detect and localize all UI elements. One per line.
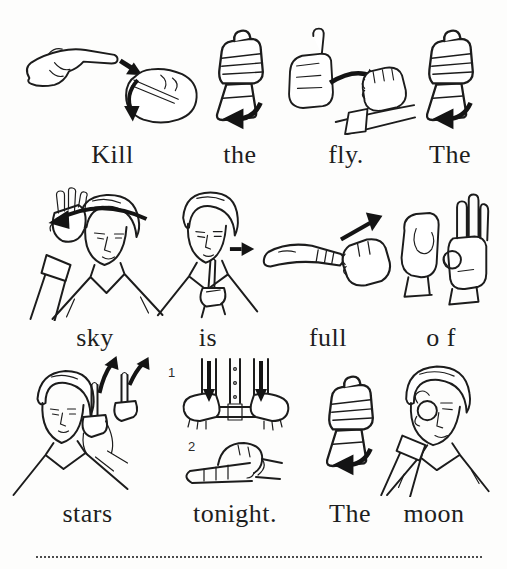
- caption-the-1: the: [223, 141, 256, 169]
- fly-sign-illustration: [276, 22, 416, 138]
- sign-cell-of: o f: [385, 183, 497, 352]
- step-label-2: 2: [188, 439, 195, 454]
- sign-cell-is: is: [152, 183, 264, 352]
- caption-of: o f: [426, 324, 456, 352]
- full-sign-illustration: [258, 183, 398, 321]
- caption-sky: sky: [76, 324, 114, 352]
- the-sign-illustration: [410, 22, 490, 138]
- sign-cell-moon: moon: [375, 355, 493, 528]
- caption-tonight: tonight.: [193, 500, 277, 528]
- step-label-1: 1: [168, 365, 175, 380]
- caption-full: full: [309, 324, 347, 352]
- kill-sign-illustration: [15, 22, 210, 138]
- sign-cell-fly: fly.: [276, 22, 416, 169]
- sign-cell-sky: sky: [15, 183, 175, 352]
- the-sign-illustration: [200, 22, 280, 138]
- caption-stars: stars: [62, 500, 112, 528]
- caption-the-2: The: [429, 141, 471, 169]
- tonight-sign-illustration: 1 2: [160, 355, 310, 497]
- caption-kill: Kill: [91, 141, 133, 169]
- moon-sign-illustration: [375, 355, 493, 497]
- sign-cell-kill: Kill: [15, 22, 210, 169]
- of-sign-illustration: [385, 183, 497, 321]
- is-sign-illustration: [152, 183, 264, 321]
- sign-cell-tonight: 1 2 tonight.: [160, 355, 310, 528]
- caption-moon: moon: [403, 500, 464, 528]
- caption-the-3: The: [329, 500, 371, 528]
- stars-sign-illustration: [10, 355, 165, 497]
- caption-fly: fly.: [328, 141, 364, 169]
- sky-sign-illustration: [15, 183, 175, 321]
- sign-cell-full: full: [258, 183, 398, 352]
- sign-cell-the-1: the: [200, 22, 280, 169]
- caption-is: is: [199, 324, 217, 352]
- sign-cell-the-2: The: [410, 22, 490, 169]
- sign-cell-stars: stars: [10, 355, 165, 528]
- sign-language-page: { "page": { "background": "#fdfdfc", "in…: [0, 0, 507, 569]
- dotted-divider: [36, 556, 482, 558]
